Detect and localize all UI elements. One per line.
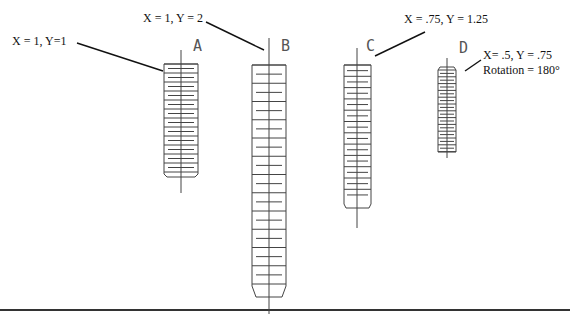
label-b: B	[281, 38, 290, 54]
leader-line-b	[206, 22, 264, 50]
caption-b: X = 1, Y = 2	[143, 11, 203, 25]
scaled-symbols-diagram: X = 1, Y=1 X = 1, Y = 2 X = .75, Y = 1.2…	[0, 0, 570, 314]
caption-c: X = .75, Y = 1.25	[404, 12, 488, 26]
caption-a: X = 1, Y=1	[12, 34, 66, 48]
leader-line-d	[465, 60, 481, 71]
label-c: C	[366, 38, 375, 54]
leader-line-c	[375, 32, 425, 56]
leader-line-a	[77, 43, 163, 71]
caption-d-line1: X= .5, Y = .75	[483, 48, 552, 62]
symbol-a	[164, 50, 198, 193]
symbol-c	[344, 48, 371, 228]
symbol-b	[252, 38, 286, 314]
label-d: D	[459, 40, 468, 56]
label-a: A	[193, 38, 202, 54]
symbol-d	[438, 58, 456, 158]
caption-d-line2: Rotation = 180°	[483, 63, 560, 77]
